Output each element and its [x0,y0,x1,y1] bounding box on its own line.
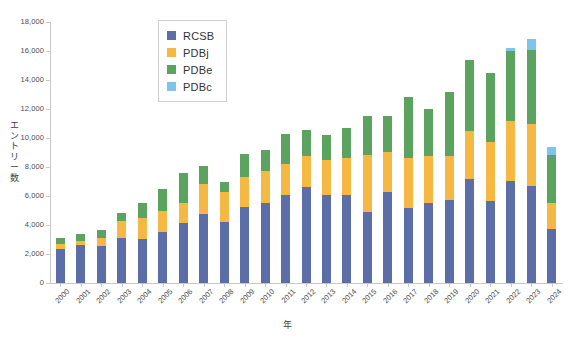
bar-segment [342,128,351,158]
y-axis-tick-label: 12,000 [0,104,44,113]
bar-group [158,189,167,283]
bar-segment [424,203,433,283]
bar-segment [158,232,167,283]
bar-segment [199,184,208,213]
bar-segment [363,212,372,283]
bar-group [281,134,290,283]
x-axis-tick-mark [122,283,123,287]
bar-segment [179,203,188,223]
bar-segment [342,158,351,195]
bar-segment [281,195,290,283]
bar-group [261,150,270,283]
bar-group [342,128,351,283]
legend-item[interactable]: RCSB [167,27,214,44]
bar-segment [506,51,515,121]
y-axis-tick-label: 6,000 [0,191,44,200]
bar-segment [138,203,147,218]
x-axis-tick-mark [142,283,143,287]
bar-segment [486,201,495,283]
bar-segment [363,155,372,212]
bar-segment [445,156,454,200]
bar-segment [486,73,495,142]
x-axis-tick-mark [265,283,266,287]
y-axis-tick-label: 10,000 [0,133,44,142]
bar-segment [322,135,331,160]
bar-group [302,130,311,283]
bar-segment [445,200,454,283]
bar-group [179,173,188,283]
bar-group [220,182,229,283]
legend-item[interactable]: PDBj [167,44,214,61]
bar-segment [240,207,249,283]
bar-segment [527,39,536,50]
bar-group [465,60,474,283]
bar-group [363,116,372,283]
bar-group [199,166,208,283]
x-axis-tick-mark [367,283,368,287]
x-axis-tick-mark [531,283,532,287]
bar-segment [506,181,515,283]
y-axis-tick-label: 0 [0,278,44,287]
y-axis-tick-label: 16,000 [0,46,44,55]
bar-segment [220,222,229,283]
bar-segment [383,116,392,152]
bar-series-layer [50,22,562,283]
bar-segment [261,150,270,171]
bar-segment [383,192,392,283]
x-axis-tick-mark [326,283,327,287]
legend-item-label: RCSB [183,30,214,42]
bar-segment [465,131,474,179]
bar-segment [240,154,249,177]
bar-segment [363,116,372,154]
legend: RCSBPDBjPDBePDBc [158,20,227,102]
x-axis-tick-mark [163,283,164,287]
bar-group [76,234,85,283]
bar-group [527,39,536,283]
x-axis-tick-mark [347,283,348,287]
bar-segment [138,239,147,283]
bar-segment [220,192,229,222]
x-axis-tick-mark [429,283,430,287]
bar-segment [302,156,311,188]
bar-segment [547,147,556,155]
bar-segment [240,177,249,206]
bar-segment [404,97,413,158]
bar-segment [117,238,126,283]
bar-segment [527,50,536,123]
y-axis-title-char: ト [6,141,22,152]
bar-segment [322,195,331,283]
y-axis-title-char: リ [6,152,22,163]
bar-group [138,203,147,283]
legend-swatch-icon [167,82,176,91]
bar-segment [281,134,290,164]
y-axis-title: エントリー数 [6,120,22,183]
bar-segment [281,164,290,195]
legend-item-label: PDBj [183,47,209,59]
plot-area [50,22,562,283]
x-axis-tick-mark [245,283,246,287]
legend-swatch-icon [167,65,176,74]
x-axis-tick-mark [552,283,553,287]
bar-segment [179,173,188,203]
y-axis-title-char: 数 [6,173,22,184]
chart-container: エントリー数 02,0004,0006,0008,00010,00012,000… [0,0,575,338]
bar-group [56,238,65,283]
legend-item[interactable]: PDBe [167,61,214,78]
bar-group [383,116,392,283]
legend-item-label: PDBe [183,64,213,76]
bar-segment [383,152,392,192]
x-axis-tick-mark [306,283,307,287]
legend-item[interactable]: PDBc [167,78,214,95]
legend-item-label: PDBc [183,81,212,93]
bar-segment [404,208,413,283]
x-axis-tick-mark [81,283,82,287]
bar-segment [424,156,433,203]
bar-segment [158,211,167,233]
y-axis-tick-label: 4,000 [0,220,44,229]
bar-segment [97,238,106,246]
x-axis-tick-mark [470,283,471,287]
bar-segment [76,245,85,283]
bar-segment [465,60,474,130]
x-axis-tick-mark [183,283,184,287]
bar-segment [424,109,433,157]
